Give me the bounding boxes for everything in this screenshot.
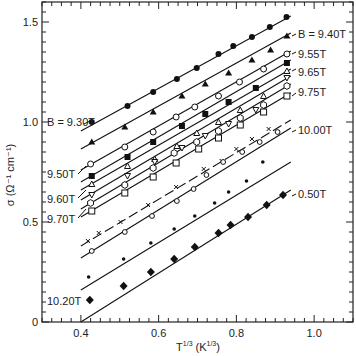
y-tick-label: 0 (32, 316, 38, 328)
data-point (284, 93, 290, 99)
series-label: 9.75T (298, 86, 326, 98)
data-point (89, 249, 94, 254)
data-point (245, 179, 249, 183)
data-point (173, 160, 179, 166)
data-point (120, 282, 128, 290)
y-axis-title: σ (Ω⁻¹ cm⁻¹) (4, 144, 16, 206)
data-point (213, 201, 217, 205)
data-point (248, 57, 255, 63)
data-point (226, 122, 232, 128)
x-tick-label: 0.4 (73, 327, 88, 339)
data-point (284, 51, 290, 57)
data-point (194, 139, 200, 146)
data-point (253, 85, 259, 91)
series-label: 10.00T (298, 124, 333, 136)
data-point (237, 107, 243, 113)
data-point (193, 214, 197, 218)
data-point (150, 165, 156, 172)
fit-lines (81, 16, 291, 322)
data-point (263, 201, 271, 209)
data-point (86, 296, 94, 304)
data-point (261, 109, 267, 115)
data-point (150, 174, 156, 180)
data-point (125, 174, 131, 180)
data-point (261, 66, 267, 72)
data-point (204, 173, 209, 178)
series-label: 10.20T (47, 295, 82, 307)
data-point (150, 89, 156, 95)
data-point (261, 160, 265, 164)
x-tick-label: 0.8 (229, 327, 244, 339)
data-point (122, 257, 126, 261)
data-point (89, 208, 95, 214)
x-axis-label: T1/3(K1/3) (176, 340, 220, 353)
data-point (221, 160, 226, 165)
data-point (150, 214, 155, 219)
data-point (267, 24, 273, 30)
fit-line (81, 120, 291, 246)
fit-line (81, 51, 291, 170)
data-point (244, 213, 252, 221)
data-point (202, 167, 206, 171)
x-tick-label: 1.0 (306, 327, 321, 339)
data-point (196, 146, 202, 152)
series-label: 9.50T (47, 168, 75, 180)
data-points (86, 14, 291, 304)
data-point (150, 129, 156, 135)
data-point (227, 221, 235, 229)
fit-line (81, 60, 291, 182)
data-point (149, 241, 153, 245)
chart-svg: 0.40.60.81.000.51.01.5 B = 9.30TB = 9.40… (0, 0, 356, 356)
x-tick-label: 0.6 (151, 327, 166, 339)
data-point (249, 34, 255, 40)
data-point (150, 139, 156, 145)
x-axis-title: T1/3(K1/3) (176, 340, 220, 353)
data-point (215, 135, 221, 141)
data-point (174, 199, 179, 204)
y-axis-label: σ (Ω⁻¹ cm⁻¹) (4, 144, 16, 206)
data-point (267, 127, 271, 131)
data-point (267, 47, 274, 53)
fit-line (81, 84, 291, 209)
data-point (191, 243, 199, 251)
fit-line (81, 93, 291, 217)
data-point (88, 161, 94, 167)
data-point (240, 150, 245, 155)
data-point (236, 79, 242, 85)
data-point (174, 185, 178, 189)
data-point (122, 230, 127, 235)
data-point (234, 147, 238, 151)
data-point (216, 128, 222, 135)
data-point (230, 43, 236, 49)
data-point (122, 190, 128, 196)
data-point (275, 130, 280, 135)
data-point (122, 144, 128, 150)
data-point (171, 150, 177, 157)
data-point (215, 51, 221, 57)
data-point (89, 173, 95, 179)
data-point (150, 109, 157, 115)
series-label: 9.65T (298, 66, 326, 78)
series-label: 9.70T (47, 213, 75, 225)
data-point (178, 93, 185, 99)
data-point (202, 111, 208, 117)
data-point (284, 60, 290, 66)
data-point (192, 104, 198, 110)
data-point (97, 231, 101, 235)
data-point (89, 181, 95, 187)
fit-line (81, 69, 291, 190)
fit-line (81, 33, 291, 149)
data-point (173, 114, 179, 120)
data-point (250, 137, 254, 141)
series-label: B = 9.40T (298, 28, 346, 40)
data-point (122, 182, 128, 189)
data-point (215, 93, 221, 99)
data-point (147, 268, 155, 276)
data-point (191, 187, 196, 192)
data-point (284, 83, 290, 90)
data-point (227, 190, 231, 194)
data-point (237, 115, 243, 122)
data-point (225, 70, 232, 76)
data-point (125, 154, 131, 160)
data-point (194, 65, 200, 71)
